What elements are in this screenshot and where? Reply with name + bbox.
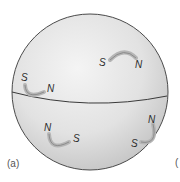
south-pole-label: S <box>99 57 106 68</box>
south-pole-label: S <box>73 133 80 144</box>
sphere-diagram: S N S N N S N S (a) ( <box>0 0 180 182</box>
panel-label: (a) <box>7 158 19 169</box>
north-pole-label: N <box>47 83 55 94</box>
north-pole-label: N <box>135 59 143 70</box>
sphere <box>12 14 168 170</box>
north-pole-label: N <box>148 114 156 125</box>
south-pole-label: S <box>131 138 138 149</box>
south-pole-label: S <box>21 72 28 83</box>
next-panel-fragment: ( <box>175 157 179 168</box>
north-pole-label: N <box>44 122 52 133</box>
